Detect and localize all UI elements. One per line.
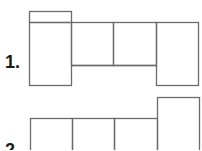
fig2-cell-b xyxy=(73,119,115,151)
diagram-canvas: 1. 2. xyxy=(0,0,202,150)
fig2-cell-a xyxy=(31,119,73,151)
figure-1-net xyxy=(30,12,199,86)
figure-2-net xyxy=(31,98,200,151)
fig2-cell-c xyxy=(115,119,158,151)
fig1-left-panel xyxy=(30,23,72,86)
fig1-middle-cell-a xyxy=(72,23,114,66)
fig1-middle-cell-b xyxy=(114,23,157,66)
nets-drawing xyxy=(0,0,202,150)
fig2-right-tall-panel xyxy=(158,98,200,151)
fig1-top-tab xyxy=(30,12,72,23)
fig1-right-panel xyxy=(157,23,199,86)
